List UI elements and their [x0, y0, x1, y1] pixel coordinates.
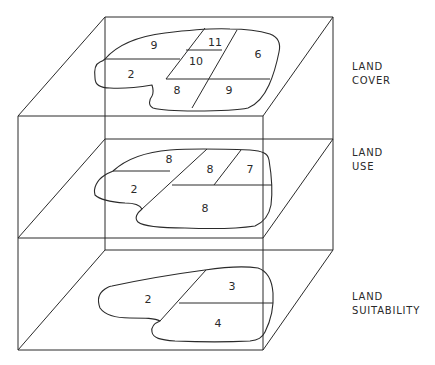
parcel-value: 8 [202, 202, 209, 215]
parcel-value: 8 [166, 153, 173, 166]
land-layers-diagram: 9 11 10 6 2 8 9 8 8 7 2 8 3 2 4 LAND COV… [0, 0, 435, 365]
layer-label-land-cover: LAND COVER [352, 61, 391, 86]
label-line: LAND [352, 61, 383, 72]
parcel-value: 3 [229, 280, 236, 293]
parcel-value: 8 [207, 163, 214, 176]
parcel-value: 2 [145, 293, 152, 306]
parcel-divider [166, 28, 205, 79]
parcel-divider [214, 150, 241, 185]
parcel-value: 6 [255, 48, 262, 61]
plane-left-edge [18, 250, 105, 350]
plane-land-suitability [18, 250, 333, 350]
layer-label-land-use: LAND USE [352, 147, 383, 172]
plane-left-edge [18, 139, 105, 238]
parcel-value: 9 [226, 84, 233, 97]
parcel-value: 10 [189, 55, 203, 68]
parcel-value: 8 [174, 84, 181, 97]
plane-right-edge [263, 139, 333, 238]
map-land-suitability: 3 2 4 [99, 267, 274, 342]
parcel-value: 9 [151, 39, 158, 52]
parcel-value: 2 [131, 183, 138, 196]
parcel-divider [160, 270, 206, 321]
parcel-value: 2 [128, 68, 135, 81]
label-line: USE [352, 161, 374, 172]
parcel-outline [94, 149, 271, 229]
parcel-divider [142, 149, 207, 209]
parcel-outline [99, 267, 274, 342]
label-line: SUITABILITY [352, 305, 420, 316]
layer-label-land-suitability: LAND SUITABILITY [352, 291, 420, 316]
map-land-cover: 9 11 10 6 2 8 9 [95, 28, 280, 111]
map-land-use: 8 8 7 2 8 [94, 149, 272, 229]
plane-land-use [18, 139, 333, 238]
label-line: LAND [352, 147, 383, 158]
label-line: LAND [352, 291, 383, 302]
parcel-value: 11 [208, 36, 222, 49]
parcel-value: 7 [247, 163, 254, 176]
parcel-outline [95, 29, 280, 111]
parcel-value: 4 [215, 317, 222, 330]
label-line: COVER [352, 75, 391, 86]
